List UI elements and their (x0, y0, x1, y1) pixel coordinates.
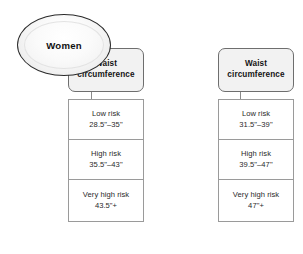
node-women-label: Women (46, 40, 81, 51)
header-box-men-text: Waist circumference (224, 59, 287, 81)
table-row: Very high risk 47"+ (219, 180, 293, 221)
risk-label: Very high risk (233, 190, 279, 200)
table-row: Very high risk 43.5"+ (69, 180, 143, 221)
risk-value: 47"+ (248, 201, 264, 211)
diagram-column-women: Waist circumference Women Low risk 28.5"… (0, 0, 152, 254)
risk-table-women: Low risk 28.5"–35" High risk 35.5"–43" V… (68, 99, 144, 222)
risk-label: Low risk (92, 109, 120, 119)
diagram-column-men: Waist circumference Men Low risk 31.5"–3… (150, 0, 302, 254)
table-row: Low risk 31.5"–39" (219, 100, 293, 140)
risk-label: High risk (241, 149, 271, 159)
header-box-men: Waist circumference (218, 48, 294, 92)
risk-table-men: Low risk 31.5"–39" High risk 39.5"–47" V… (218, 99, 294, 222)
risk-value: 31.5"–39" (239, 120, 272, 130)
waist-circumference-risk-diagram: Waist circumference Women Low risk 28.5"… (0, 0, 303, 254)
risk-label: Very high risk (83, 190, 129, 200)
table-row: High risk 39.5"–47" (219, 140, 293, 180)
risk-label: Low risk (242, 109, 270, 119)
node-women: Women (17, 14, 111, 76)
risk-value: 35.5"–43" (89, 160, 122, 170)
table-row: Low risk 28.5"–35" (69, 100, 143, 140)
header-box-men-line2: circumference (227, 70, 284, 81)
risk-value: 39.5"–47" (239, 160, 272, 170)
risk-label: High risk (91, 149, 121, 159)
risk-value: 28.5"–35" (89, 120, 122, 130)
risk-value: 43.5"+ (95, 201, 117, 211)
table-row: High risk 35.5"–43" (69, 140, 143, 180)
header-box-men-line1: Waist (227, 59, 284, 70)
